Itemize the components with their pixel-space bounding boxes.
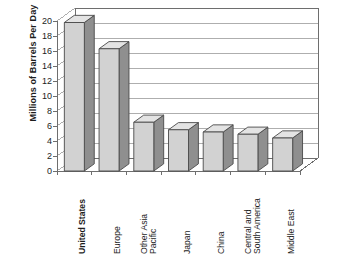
x-axis-label-0-line1: United States <box>77 199 87 254</box>
x-axis-label-0: United States <box>78 199 87 254</box>
x-axis-label-1-line1: Europe <box>112 226 122 254</box>
x-axis-label-6: Middle East <box>287 209 296 254</box>
x-axis-label-5: Central andSouth America <box>244 198 263 254</box>
x-axis-label-3-line1: Japan <box>182 231 192 254</box>
x-axis-label-2-line2: Pacific <box>149 214 158 254</box>
x-axis-label-1: Europe <box>113 226 122 254</box>
x-axis-label-3: Japan <box>183 231 192 254</box>
x-axis-label-2-line1: Other Asia <box>139 214 149 254</box>
bars <box>64 15 302 171</box>
x-axis-label-6-line1: Middle East <box>286 209 296 254</box>
x-axis-label-4: China <box>217 232 226 254</box>
x-axis-label-4-line1: China <box>216 232 226 254</box>
bar-chart: Millions of Barrels Per Day 20 18 16 14 … <box>0 0 340 265</box>
x-axis-label-5-line2: South America <box>253 198 262 254</box>
x-axis-label-2: Other AsiaPacific <box>140 214 159 254</box>
